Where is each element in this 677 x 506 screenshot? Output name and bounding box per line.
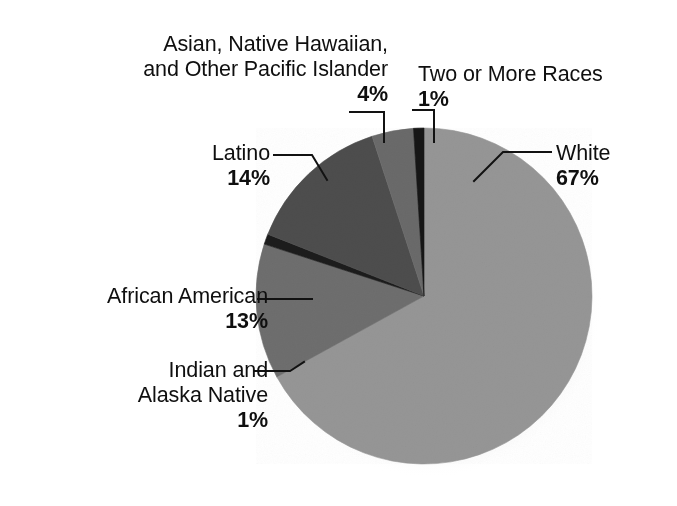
slice-value-indian-alaska-native: 1% — [78, 408, 268, 433]
slice-value-white: 67% — [556, 166, 666, 191]
pie-chart-figure: Asian, Native Hawaiian, and Other Pacifi… — [0, 0, 677, 506]
slice-label-two-or-more-races: Two or More Races 1% — [418, 62, 668, 112]
pie-texture-overlay — [256, 128, 592, 464]
slice-label-african-american-line1: African American — [18, 284, 268, 309]
slice-label-indian-alaska-native-line1: Indian and — [78, 358, 268, 383]
slice-value-asian: 4% — [88, 82, 388, 107]
slice-value-latino: 14% — [130, 166, 270, 191]
slice-label-asian-line1: Asian, Native Hawaiian, — [88, 32, 388, 57]
slice-value-two-or-more-races: 1% — [418, 87, 668, 112]
slice-label-indian-alaska-native-line2: Alaska Native — [78, 383, 268, 408]
slice-label-white: White 67% — [556, 141, 666, 191]
slice-label-two-or-more-races-line1: Two or More Races — [418, 62, 668, 87]
slice-value-african-american: 13% — [18, 309, 268, 334]
slice-label-asian: Asian, Native Hawaiian, and Other Pacifi… — [88, 32, 388, 107]
slice-label-latino-line1: Latino — [130, 141, 270, 166]
slice-label-white-line1: White — [556, 141, 666, 166]
slice-label-latino: Latino 14% — [130, 141, 270, 191]
slice-label-indian-alaska-native: Indian and Alaska Native 1% — [78, 358, 268, 433]
slice-label-asian-line2: and Other Pacific Islander — [88, 57, 388, 82]
slice-label-african-american: African American 13% — [18, 284, 268, 334]
